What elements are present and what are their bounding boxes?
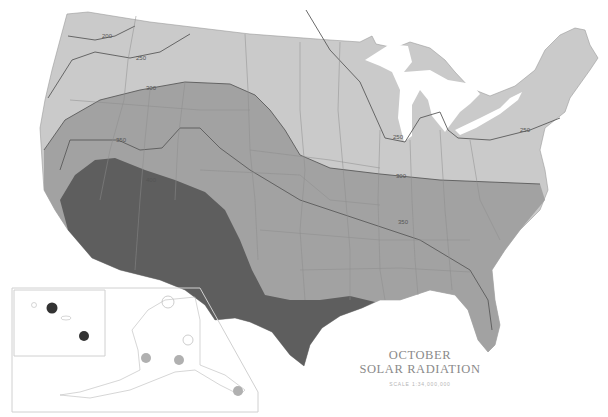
contour-label-200: 200 [102, 33, 113, 39]
contour-label-250: 250 [136, 55, 147, 61]
contour-label-250-east: 250 [393, 134, 404, 140]
solar-radiation-map: 200 250 300 350 400 250 300 250 350 [0, 0, 608, 417]
map-title-line-2: SOLAR RADIATION [350, 362, 490, 376]
contour-label-350: 350 [116, 137, 127, 143]
map-title: OCTOBER SOLAR RADIATION [350, 348, 490, 376]
contour-label-350-southeast: 350 [398, 219, 409, 225]
hawaii-inset [32, 303, 90, 342]
contour-label-300: 300 [146, 85, 157, 91]
contour-label-250-northeast: 250 [520, 127, 531, 133]
contour-label-400: 400 [146, 177, 157, 183]
map-scale: SCALE 1:34,000,000 [350, 381, 490, 387]
map-title-line-1: OCTOBER [350, 348, 490, 362]
contour-label-300-east: 300 [396, 173, 407, 179]
